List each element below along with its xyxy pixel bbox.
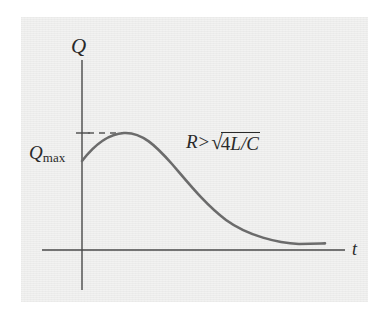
radicand: 4L/C bbox=[221, 132, 260, 153]
condition-lhs: R bbox=[186, 132, 198, 151]
figure-root: Q t Qmax R>√4L/C bbox=[0, 0, 385, 324]
radical-sign-icon: √ bbox=[211, 130, 223, 154]
overdamped-condition-annotation: R>√4L/C bbox=[186, 132, 260, 154]
y-axis-label: Q bbox=[71, 36, 86, 57]
x-axis-label: t bbox=[352, 240, 357, 258]
greater-than-icon: > bbox=[199, 132, 210, 151]
radicand-inductance: L bbox=[230, 133, 241, 154]
radical-expression: √4L/C bbox=[211, 132, 260, 154]
radicand-capacitance: C bbox=[246, 133, 259, 154]
qmax-base: Q bbox=[29, 142, 43, 163]
qmax-subscript: max bbox=[43, 150, 66, 165]
qmax-label: Qmax bbox=[29, 143, 65, 164]
